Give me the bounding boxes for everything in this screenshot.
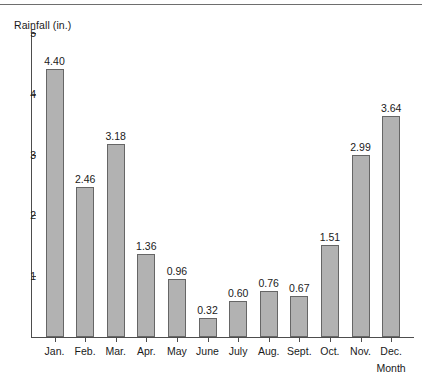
bar [321, 245, 339, 337]
x-axis-category-label: Aug. [258, 345, 280, 357]
bar-value-label: 1.36 [136, 240, 156, 252]
bar [352, 155, 370, 337]
bar [168, 279, 186, 337]
x-axis-category-label: Sept. [287, 345, 312, 357]
bar [229, 301, 247, 337]
y-axis-line [31, 33, 32, 338]
rainfall-bar-chart-figure: Rainfall (in.) 12345 4.402.463.181.360.9… [0, 0, 422, 385]
x-axis-category-label: July [229, 345, 248, 357]
y-axis-tick-label: 3 [10, 149, 36, 161]
x-axis-tick [391, 338, 392, 342]
x-axis-category-label: Apr. [137, 345, 156, 357]
bar [107, 144, 125, 337]
x-axis-category-label: May [167, 345, 187, 357]
bar-value-label: 0.76 [258, 277, 278, 289]
y-axis-tick-label: 5 [10, 27, 36, 39]
x-axis-tick [299, 338, 300, 342]
y-axis-tick-label: 1 [10, 270, 36, 282]
bar [137, 254, 155, 337]
x-axis-tick [238, 338, 239, 342]
x-axis-tick [177, 338, 178, 342]
plot-area: 12345 4.402.463.181.360.960.320.600.760.… [0, 0, 422, 385]
x-axis-category-label: Jan. [45, 345, 65, 357]
x-axis-title: Month [377, 362, 406, 374]
bar-value-label: 1.51 [320, 231, 340, 243]
x-axis-tick [55, 338, 56, 342]
bar [290, 296, 308, 337]
x-axis-category-label: Nov. [350, 345, 371, 357]
x-axis-line [31, 337, 414, 338]
x-axis-tick [208, 338, 209, 342]
y-axis-tick-label: 2 [10, 209, 36, 221]
x-axis-tick [269, 338, 270, 342]
x-axis-category-label: June [196, 345, 219, 357]
bar-value-label: 0.96 [167, 265, 187, 277]
x-axis-category-label: Oct. [320, 345, 339, 357]
x-axis-category-label: Dec. [380, 345, 402, 357]
x-axis-tick [330, 338, 331, 342]
bar-value-label: 3.64 [381, 102, 401, 114]
y-axis-tick-label: 4 [10, 88, 36, 100]
bar-value-label: 3.18 [105, 130, 125, 142]
bar [46, 69, 64, 337]
bar-value-label: 2.99 [350, 141, 370, 153]
x-axis-category-label: Mar. [105, 345, 125, 357]
bar [199, 318, 217, 337]
bar [382, 116, 400, 337]
x-axis-category-label: Feb. [75, 345, 96, 357]
bar-value-label: 4.40 [44, 55, 64, 67]
x-axis-tick [85, 338, 86, 342]
bar-value-label: 2.46 [75, 173, 95, 185]
x-axis-tick [361, 338, 362, 342]
x-axis-tick [146, 338, 147, 342]
bar [260, 291, 278, 337]
bar-value-label: 0.67 [289, 282, 309, 294]
x-axis-tick [116, 338, 117, 342]
bar-value-label: 0.60 [228, 287, 248, 299]
bar-value-label: 0.32 [197, 304, 217, 316]
bar [76, 187, 94, 337]
